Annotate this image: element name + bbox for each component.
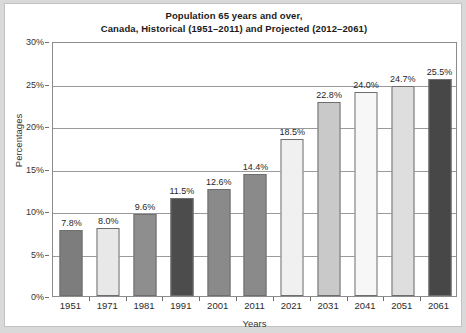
bar-slot: 11.5% [163, 43, 200, 296]
bar-slot: 12.6% [200, 43, 237, 296]
x-axis-tick-mark [236, 297, 237, 301]
bar-value-label-2041: 24.0% [353, 80, 379, 90]
y-axis-tick-label: 30% [26, 37, 44, 47]
y-axis-tick-label: 10% [26, 207, 44, 217]
x-axis-title: Years [52, 318, 457, 329]
x-axis-tick-label-1981: 1981 [133, 300, 154, 311]
bar-2061[interactable] [428, 79, 451, 296]
chart-title: Population 65 years and over, Canada, Hi… [5, 10, 463, 35]
bar-value-label-2011: 14.4% [243, 162, 269, 172]
plot-area: 7.8%8.0%9.6%11.5%12.6%14.4%18.5%22.8%24.… [52, 42, 457, 297]
bar-slot: 18.5% [274, 43, 311, 296]
bar-slot: 24.0% [348, 43, 385, 296]
x-axis-tick-label-1971: 1971 [97, 300, 118, 311]
bar-value-label-2031: 22.8% [316, 90, 342, 100]
y-axis-tick-labels: 0%5%10%15%20%25%30% [5, 42, 49, 297]
bar-2041[interactable] [354, 92, 377, 296]
bar-value-label-1971: 8.0% [98, 216, 119, 226]
bar-2031[interactable] [318, 102, 341, 296]
y-axis-tick-mark [45, 127, 49, 128]
bar-2001[interactable] [207, 189, 230, 296]
x-axis-tick-label-2001: 2001 [207, 300, 228, 311]
bar-slot: 8.0% [90, 43, 127, 296]
chart-card: Population 65 years and over, Canada, Hi… [4, 3, 462, 327]
y-axis-tick-label: 0% [31, 292, 44, 302]
bar-2051[interactable] [391, 86, 414, 296]
bar-2021[interactable] [281, 139, 304, 296]
bar-2011[interactable] [244, 174, 267, 296]
x-axis-tick-label-1951: 1951 [60, 300, 81, 311]
bar-value-label-2061: 25.5% [427, 67, 453, 77]
x-axis-tick-label-1991: 1991 [170, 300, 191, 311]
y-axis-tick-mark [45, 255, 49, 256]
x-axis-tick-label-2031: 2031 [318, 300, 339, 311]
x-axis-tick-mark [420, 297, 421, 301]
bar-1951[interactable] [60, 230, 83, 296]
y-axis-tick-mark [45, 85, 49, 86]
x-axis-tick-label-2011: 2011 [244, 300, 264, 311]
chart-title-line-2: Canada, Historical (1951–2011) and Proje… [5, 23, 463, 36]
y-axis-tick-mark [45, 42, 49, 43]
bar-value-label-2021: 18.5% [280, 127, 306, 137]
x-axis-tick-mark [383, 297, 384, 301]
y-axis-tick-label: 5% [31, 250, 44, 260]
x-axis-tick-label-2061: 2061 [428, 300, 449, 311]
bar-slot: 7.8% [53, 43, 90, 296]
y-axis-tick-mark [45, 212, 49, 213]
x-axis-tick-label-2021: 2021 [281, 300, 302, 311]
bar-1981[interactable] [134, 214, 157, 296]
bar-value-label-1991: 11.5% [169, 186, 194, 196]
y-axis-tick-mark [45, 297, 49, 298]
bar-value-label-2051: 24.7% [390, 74, 416, 84]
bar-slot: 14.4% [237, 43, 274, 296]
bar-slot: 22.8% [311, 43, 348, 296]
x-axis-tick-mark [310, 297, 311, 301]
y-axis-tick-mark [45, 170, 49, 171]
bar-slot: 24.7% [384, 43, 421, 296]
x-axis-tick-mark [162, 297, 163, 301]
x-axis-tick-mark [126, 297, 127, 301]
x-axis-tick-mark [199, 297, 200, 301]
x-axis-tick-mark [273, 297, 274, 301]
bar-value-label-1951: 7.8% [61, 218, 82, 228]
bar-value-label-2001: 12.6% [206, 177, 232, 187]
bar-1971[interactable] [97, 228, 120, 296]
chart-title-line-1: Population 65 years and over, [5, 10, 463, 23]
bar-slot: 25.5% [421, 43, 458, 296]
bar-1991[interactable] [170, 198, 193, 296]
bar-slot: 9.6% [127, 43, 164, 296]
bar-value-label-1981: 9.6% [135, 202, 156, 212]
x-axis-tick-mark [347, 297, 348, 301]
y-axis-tick-label: 25% [26, 80, 44, 90]
y-axis-tick-label: 20% [26, 122, 44, 132]
y-axis-tick-label: 15% [26, 165, 44, 175]
x-axis-tick-mark [89, 297, 90, 301]
x-axis-tick-label-2051: 2051 [391, 300, 412, 311]
x-axis-tick-label-2041: 2041 [354, 300, 375, 311]
